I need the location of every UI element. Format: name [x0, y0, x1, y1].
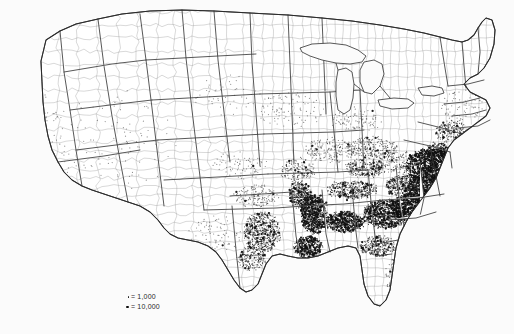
large-dot-icon: [118, 306, 131, 309]
legend-row-10000: = 10,000: [118, 302, 160, 312]
legend-row-1000: = 1,000: [118, 292, 160, 302]
us-county-map: [0, 0, 514, 334]
dot-density-map-figure: = 1,000 = 10,000: [0, 0, 514, 334]
small-dot-icon: [118, 296, 131, 297]
legend-label-10000: 10,000: [137, 302, 160, 312]
legend: = 1,000 = 10,000: [118, 292, 160, 312]
legend-label-1000: 1,000: [137, 292, 156, 302]
lake-ontario: [418, 86, 444, 96]
